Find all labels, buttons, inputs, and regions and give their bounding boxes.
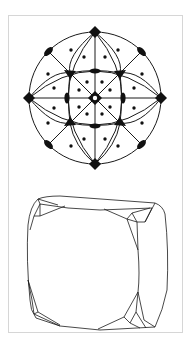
ellipse-icon — [120, 93, 125, 104]
pole-dot — [116, 48, 119, 51]
pole-dot — [140, 72, 143, 75]
pole-dot — [77, 88, 80, 91]
pole-dot — [103, 137, 106, 140]
facet-bottom-right-2 — [124, 292, 138, 317]
front-face-right-edge — [138, 250, 139, 292]
facet-bottom-right — [98, 317, 140, 329]
pole-dot — [140, 121, 143, 124]
pole-dot — [100, 80, 103, 83]
facet-top-right-4 — [137, 222, 138, 250]
pole-dot — [69, 144, 72, 147]
ellipse-icon — [64, 93, 69, 104]
crystal-outline — [27, 196, 167, 330]
pole-dot — [52, 106, 55, 109]
pole-dot — [52, 86, 55, 89]
facet-bottom-right-5 — [138, 292, 155, 327]
pole-dot — [69, 48, 72, 51]
facet-bottom-left — [28, 280, 60, 326]
pole-dot — [46, 121, 49, 124]
pole-dot — [108, 88, 111, 91]
facet-top-right-5 — [145, 203, 155, 222]
pole-dot — [132, 86, 135, 89]
facet-top-right-2 — [127, 219, 138, 250]
facet-top-left — [30, 199, 40, 230]
pole-dot — [82, 55, 85, 58]
pole-dot — [100, 112, 103, 115]
pole-dot — [116, 144, 119, 147]
pole-dot — [108, 105, 111, 108]
pole-dot — [132, 106, 135, 109]
facet-bottom-left-3 — [34, 312, 38, 314]
pole-dot — [77, 105, 80, 108]
figure-svg — [0, 0, 190, 343]
diamond-icon — [155, 92, 167, 104]
ellipse-icon — [90, 123, 101, 128]
pole-dot — [103, 55, 106, 58]
center-hole-icon — [93, 96, 97, 100]
pole-dot — [85, 80, 88, 83]
crystal-drawing — [27, 196, 167, 330]
pole-dot — [82, 137, 85, 140]
ellipse-icon — [90, 68, 101, 73]
pole-dot — [46, 72, 49, 75]
pole-dot — [85, 112, 88, 115]
